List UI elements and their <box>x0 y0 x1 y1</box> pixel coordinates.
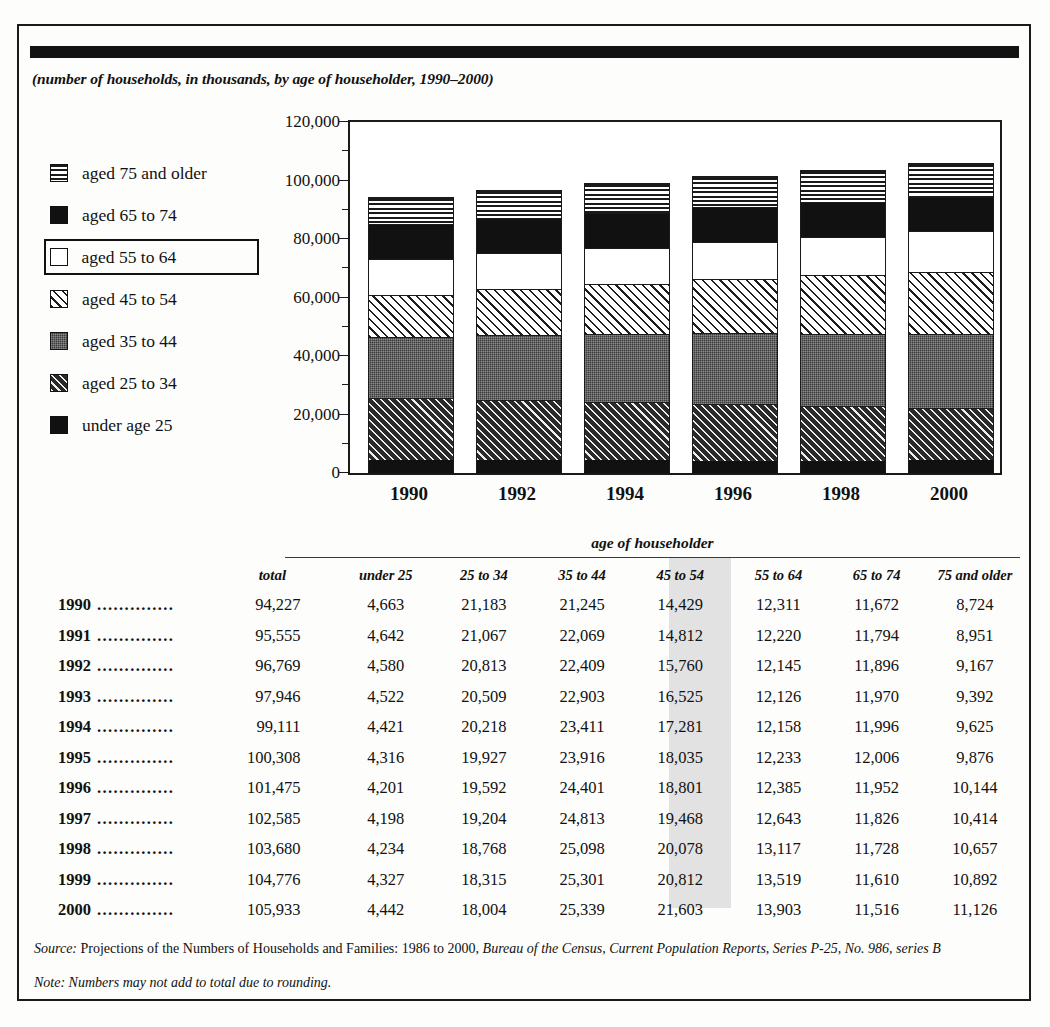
cell-65-to-74: 11,896 <box>828 651 926 682</box>
data-table: total under 25 25 to 34 35 to 44 45 to 5… <box>36 560 1024 926</box>
legend-item-aged-45-to-54[interactable]: aged 45 to 54 <box>44 278 259 320</box>
cell-45-to-54: 15,760 <box>631 651 729 682</box>
col-header-75-and-older: 75 and older <box>926 560 1024 590</box>
bar-segment-1996-aged-65-to-74 <box>693 207 777 242</box>
year-value: 1990 <box>58 595 91 614</box>
year-value: 1994 <box>58 717 91 736</box>
bar-1990[interactable] <box>368 197 454 473</box>
leader-dots: .............. <box>91 839 174 858</box>
cell-75-and-older: 10,414 <box>926 804 1024 835</box>
legend-item-aged-65-to-74[interactable]: aged 65 to 74 <box>44 194 259 236</box>
bar-segment-1994-aged-75-and-older <box>585 184 669 212</box>
cell-under-25: 4,663 <box>337 590 435 621</box>
cell-65-to-74: 11,672 <box>828 590 926 621</box>
cell-25-to-34: 19,927 <box>435 743 533 774</box>
bar-segment-1992-aged-55-to-64 <box>477 253 561 289</box>
legend-swatch-icon <box>50 248 68 266</box>
cell-under-25: 4,642 <box>337 621 435 652</box>
bar-segment-1990-aged-75-and-older <box>369 198 453 224</box>
x-axis-label-2000: 2000 <box>904 483 994 505</box>
cell-45-to-54: 21,603 <box>631 895 729 926</box>
legend-swatch-icon <box>50 374 68 392</box>
table-row: 1990..............94,2274,66321,18321,24… <box>36 590 1024 621</box>
bar-segment-1996-aged-45-to-54 <box>693 279 777 334</box>
bar-segment-2000-aged-35-to-44 <box>909 334 993 407</box>
cell-year: 1996.............. <box>36 773 208 804</box>
table-row: 1994..............99,1114,42120,21823,41… <box>36 712 1024 743</box>
bar-1996[interactable] <box>692 176 778 473</box>
table-row: 1998..............103,6804,23418,76825,0… <box>36 834 1024 865</box>
legend-item-label: aged 45 to 54 <box>82 289 177 310</box>
cell-45-to-54: 18,035 <box>631 743 729 774</box>
y-axis-tick-labels: 020,00040,00060,00080,000100,000120,000 <box>252 120 340 473</box>
bar-segment-1994-aged-35-to-44 <box>585 334 669 402</box>
y-tick-label-20000: 20,000 <box>293 405 340 425</box>
cell-total: 95,555 <box>208 621 336 652</box>
bar-segment-2000-aged-55-to-64 <box>909 231 993 272</box>
data-table-wrapper: total under 25 25 to 34 35 to 44 45 to 5… <box>36 560 1024 926</box>
cell-total: 104,776 <box>208 865 336 896</box>
year-value: 2000 <box>58 900 91 919</box>
cell-45-to-54: 20,078 <box>631 834 729 865</box>
cell-35-to-44: 23,916 <box>533 743 631 774</box>
col-header-45-to-54: 45 to 54 <box>631 560 729 590</box>
figure-subtitle: (number of households, in thousands, by … <box>32 70 494 88</box>
cell-35-to-44: 25,339 <box>533 895 631 926</box>
bar-segment-1996-aged-35-to-44 <box>693 333 777 404</box>
cell-year: 1993.............. <box>36 682 208 713</box>
bar-2000[interactable] <box>908 163 994 473</box>
plot-area <box>350 122 1000 473</box>
cell-total: 96,769 <box>208 651 336 682</box>
cell-25-to-34: 21,067 <box>435 621 533 652</box>
legend-item-under-age-25[interactable]: under age 25 <box>44 404 259 446</box>
y-tick-label-120000: 120,000 <box>285 112 340 132</box>
table-row: 1999..............104,7764,32718,31525,3… <box>36 865 1024 896</box>
bar-segment-1990-aged-45-to-54 <box>369 295 453 337</box>
source-note: Source: Projections of the Numbers of Ho… <box>34 941 941 957</box>
cell-75-and-older: 8,951 <box>926 621 1024 652</box>
cell-total: 97,946 <box>208 682 336 713</box>
cell-under-25: 4,421 <box>337 712 435 743</box>
bar-segment-1998-aged-35-to-44 <box>801 334 885 407</box>
year-value: 1998 <box>58 839 91 858</box>
legend-swatch-icon <box>50 290 68 308</box>
rounding-note: Note: Numbers may not add to total due t… <box>34 975 331 991</box>
cell-under-25: 4,201 <box>337 773 435 804</box>
table-row: 1996..............101,4754,20119,59224,4… <box>36 773 1024 804</box>
cell-75-and-older: 9,392 <box>926 682 1024 713</box>
cell-under-25: 4,234 <box>337 834 435 865</box>
bar-segment-1994-aged-55-to-64 <box>585 248 669 284</box>
year-value: 1999 <box>58 870 91 889</box>
cell-under-25: 4,580 <box>337 651 435 682</box>
legend-item-aged-35-to-44[interactable]: aged 35 to 44 <box>44 320 259 362</box>
col-header-25-to-34: 25 to 34 <box>435 560 533 590</box>
cell-65-to-74: 11,952 <box>828 773 926 804</box>
cell-75-and-older: 9,625 <box>926 712 1024 743</box>
col-header-under-25: under 25 <box>337 560 435 590</box>
legend-item-aged-55-to-64[interactable]: aged 55 to 64 <box>44 239 259 275</box>
bar-1998[interactable] <box>800 170 886 473</box>
legend-item-aged-75-and-older[interactable]: aged 75 and older <box>44 152 259 194</box>
cell-total: 103,680 <box>208 834 336 865</box>
bar-segment-1998-aged-75-and-older <box>801 171 885 202</box>
legend-swatch-icon <box>50 332 68 350</box>
bar-segment-1994-aged-45-to-54 <box>585 284 669 334</box>
bar-1994[interactable] <box>584 183 670 473</box>
y-tick-label-60000: 60,000 <box>293 288 340 308</box>
cell-65-to-74: 11,728 <box>828 834 926 865</box>
cell-35-to-44: 24,401 <box>533 773 631 804</box>
bar-segment-1996-aged-75-and-older <box>693 177 777 207</box>
legend-item-aged-25-to-34[interactable]: aged 25 to 34 <box>44 362 259 404</box>
cell-25-to-34: 20,509 <box>435 682 533 713</box>
cell-75-and-older: 10,657 <box>926 834 1024 865</box>
cell-75-and-older: 11,126 <box>926 895 1024 926</box>
cell-75-and-older: 8,724 <box>926 590 1024 621</box>
year-value: 1996 <box>58 778 91 797</box>
cell-35-to-44: 24,813 <box>533 804 631 835</box>
bar-1992[interactable] <box>476 190 562 473</box>
cell-year: 1997.............. <box>36 804 208 835</box>
cell-total: 94,227 <box>208 590 336 621</box>
legend-item-label: aged 55 to 64 <box>82 247 177 268</box>
bar-segment-1992-aged-75-and-older <box>477 191 561 218</box>
cell-25-to-34: 18,315 <box>435 865 533 896</box>
